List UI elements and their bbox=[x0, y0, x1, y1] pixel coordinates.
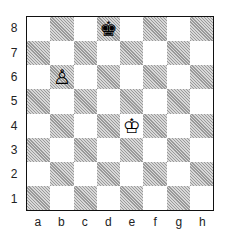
square-f4 bbox=[143, 114, 166, 138]
square-g6 bbox=[167, 65, 190, 89]
square-h5 bbox=[190, 89, 213, 113]
file-label-c: c bbox=[73, 215, 97, 229]
square-b6: ♙ bbox=[50, 65, 73, 89]
square-g3 bbox=[167, 138, 190, 162]
rank-label-5: 5 bbox=[8, 94, 20, 108]
square-c2 bbox=[74, 162, 97, 186]
square-f7 bbox=[143, 41, 166, 65]
square-e6 bbox=[120, 65, 143, 89]
square-h2 bbox=[190, 162, 213, 186]
square-c7 bbox=[74, 41, 97, 65]
file-label-g: g bbox=[167, 215, 191, 229]
square-a1 bbox=[27, 186, 50, 210]
square-h8 bbox=[190, 17, 213, 41]
file-label-h: h bbox=[191, 215, 215, 229]
square-b8 bbox=[50, 17, 73, 41]
rank-label-6: 6 bbox=[8, 70, 20, 84]
file-label-e: e bbox=[120, 215, 144, 229]
square-d5 bbox=[97, 89, 120, 113]
square-d2 bbox=[97, 162, 120, 186]
square-b3 bbox=[50, 138, 73, 162]
square-a8 bbox=[27, 17, 50, 41]
square-e2 bbox=[120, 162, 143, 186]
square-a7 bbox=[27, 41, 50, 65]
square-d6 bbox=[97, 65, 120, 89]
white-king-icon: ♔ bbox=[123, 116, 141, 136]
square-e5 bbox=[120, 89, 143, 113]
square-a2 bbox=[27, 162, 50, 186]
square-g7 bbox=[167, 41, 190, 65]
square-b2 bbox=[50, 162, 73, 186]
rank-label-2: 2 bbox=[8, 167, 20, 181]
square-a5 bbox=[27, 89, 50, 113]
square-e8 bbox=[120, 17, 143, 41]
square-c6 bbox=[74, 65, 97, 89]
square-d3 bbox=[97, 138, 120, 162]
black-king-icon: ♚ bbox=[99, 19, 117, 39]
square-h4 bbox=[190, 114, 213, 138]
square-h7 bbox=[190, 41, 213, 65]
chess-board: ♚♙♔ bbox=[26, 16, 214, 211]
square-f6 bbox=[143, 65, 166, 89]
square-a3 bbox=[27, 138, 50, 162]
square-g4 bbox=[167, 114, 190, 138]
square-g5 bbox=[167, 89, 190, 113]
file-label-b: b bbox=[50, 215, 74, 229]
square-h3 bbox=[190, 138, 213, 162]
square-d7 bbox=[97, 41, 120, 65]
square-e7 bbox=[120, 41, 143, 65]
square-f3 bbox=[143, 138, 166, 162]
rank-label-7: 7 bbox=[8, 46, 20, 60]
file-label-d: d bbox=[97, 215, 121, 229]
square-e4: ♔ bbox=[120, 114, 143, 138]
square-f2 bbox=[143, 162, 166, 186]
square-g8 bbox=[167, 17, 190, 41]
square-d4 bbox=[97, 114, 120, 138]
square-b1 bbox=[50, 186, 73, 210]
square-g1 bbox=[167, 186, 190, 210]
rank-label-4: 4 bbox=[8, 119, 20, 133]
square-g2 bbox=[167, 162, 190, 186]
square-a4 bbox=[27, 114, 50, 138]
square-e3 bbox=[120, 138, 143, 162]
square-c5 bbox=[74, 89, 97, 113]
square-c4 bbox=[74, 114, 97, 138]
rank-label-3: 3 bbox=[8, 143, 20, 157]
white-pawn-icon: ♙ bbox=[53, 67, 71, 87]
file-label-a: a bbox=[26, 215, 50, 229]
square-e1 bbox=[120, 186, 143, 210]
square-h6 bbox=[190, 65, 213, 89]
square-c3 bbox=[74, 138, 97, 162]
square-h1 bbox=[190, 186, 213, 210]
square-c1 bbox=[74, 186, 97, 210]
square-f1 bbox=[143, 186, 166, 210]
square-a6 bbox=[27, 65, 50, 89]
square-b7 bbox=[50, 41, 73, 65]
square-c8 bbox=[74, 17, 97, 41]
square-f8 bbox=[143, 17, 166, 41]
file-label-f: f bbox=[144, 215, 168, 229]
square-d8: ♚ bbox=[97, 17, 120, 41]
rank-label-8: 8 bbox=[8, 21, 20, 35]
rank-label-1: 1 bbox=[8, 192, 20, 206]
square-d1 bbox=[97, 186, 120, 210]
square-f5 bbox=[143, 89, 166, 113]
square-b4 bbox=[50, 114, 73, 138]
square-b5 bbox=[50, 89, 73, 113]
